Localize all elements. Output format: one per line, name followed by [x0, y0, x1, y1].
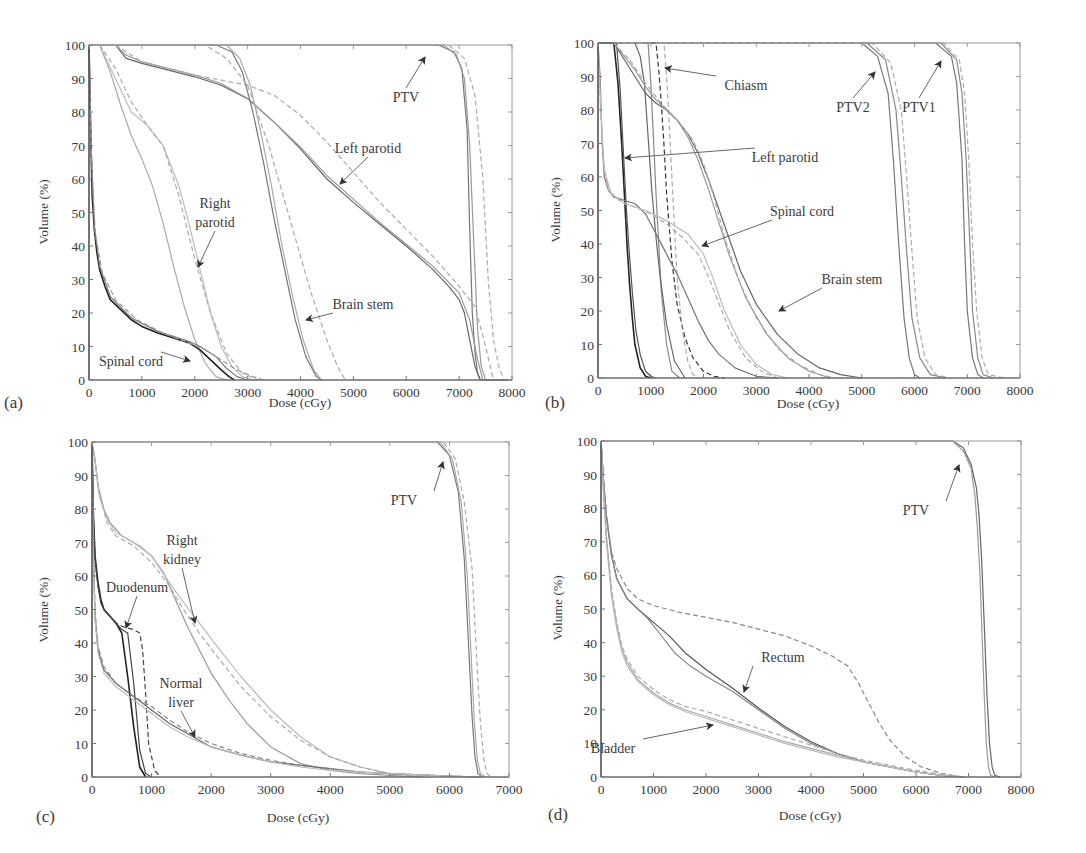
x-tick-label: 5000 [376, 782, 403, 797]
x-tick-label: 4000 [798, 782, 825, 797]
y-tick-label: 70 [581, 137, 595, 152]
curve-duodenum [92, 442, 152, 777]
x-tick-label: 7000 [955, 782, 982, 797]
curve-normal-liver [92, 442, 479, 777]
x-tick-label: 2000 [198, 782, 225, 797]
annotation-label-right: Right [166, 533, 197, 548]
curve-spinal-cord [89, 45, 248, 380]
annotation-label-left-parotid: Left parotid [752, 150, 818, 165]
annotation-label-bladder: Bladder [591, 741, 636, 756]
y-tick-label: 80 [75, 502, 89, 517]
annotation-arrow-icon [182, 568, 195, 623]
panel-d-ylabel: Volume (%) [550, 575, 565, 640]
x-tick-label: 8000 [499, 385, 526, 400]
y-tick-label: 0 [590, 770, 597, 785]
y-tick-label: 90 [72, 72, 86, 87]
curve-right-parotid [100, 45, 227, 380]
x-tick-label: 3000 [257, 782, 284, 797]
curve-left-parotid [598, 43, 656, 378]
y-tick-label: 20 [72, 306, 86, 321]
y-tick-label: 40 [581, 237, 595, 252]
y-tick-label: 70 [72, 139, 86, 154]
annotation-label-spinal-cord: Spinal cord [770, 204, 834, 219]
y-tick-label: 40 [75, 636, 89, 651]
annotation-label-chiasm: Chiasm [725, 78, 768, 93]
y-tick-label: 50 [72, 206, 86, 221]
panel-b: 0100020003000400050006000700080000102030… [545, 36, 1034, 412]
annotation-arrow-icon [126, 596, 137, 628]
x-tick-label: 1000 [640, 782, 667, 797]
x-tick-label: 0 [89, 782, 96, 797]
x-tick-label: 7000 [446, 385, 473, 400]
x-tick-label: 6000 [436, 782, 463, 797]
y-tick-label: 50 [584, 602, 598, 617]
x-tick-label: 6000 [393, 385, 420, 400]
curve-normal-liver [92, 442, 479, 777]
y-tick-label: 10 [72, 340, 86, 355]
curve-spinal-cord [89, 45, 264, 380]
x-tick-label: 5000 [850, 782, 877, 797]
curve-duodenum [92, 442, 161, 777]
y-tick-label: 10 [581, 338, 595, 353]
panel-c-curves [92, 442, 491, 777]
panel-c-ylabel: Volume (%) [36, 577, 51, 642]
x-tick-label: 1000 [138, 782, 165, 797]
y-tick-label: 50 [581, 204, 595, 219]
x-tick-label: 3000 [743, 383, 770, 398]
annotation-arrow-icon [161, 352, 190, 361]
x-tick-label: 6000 [901, 383, 928, 398]
panel-d-curves [601, 441, 1000, 777]
annotation-label-kidney: kidney [163, 552, 201, 567]
x-tick-label: 3000 [234, 385, 261, 400]
annotation-label-ptv: PTV [903, 503, 929, 518]
x-tick-label: 5000 [848, 383, 875, 398]
curve-chiasm [643, 43, 680, 378]
y-tick-label: 30 [75, 670, 89, 685]
y-tick-label: 60 [584, 568, 598, 583]
curve-ptv [601, 441, 1000, 777]
panel-d-label: (d) [548, 805, 568, 824]
y-tick-label: 20 [581, 304, 595, 319]
curve-right-kidney [92, 442, 420, 777]
annotation-label-duodenum: Duodenum [106, 580, 168, 595]
y-tick-label: 70 [75, 536, 89, 551]
annotation-label-ptv: PTV [391, 493, 417, 508]
y-tick-label: 60 [75, 569, 89, 584]
y-tick-label: 70 [584, 535, 598, 550]
x-tick-label: 6000 [903, 782, 930, 797]
y-tick-label: 80 [581, 103, 595, 118]
plot-frame [92, 442, 509, 777]
plot-frame [601, 441, 1021, 777]
annotation-arrow-icon [198, 231, 215, 267]
annotation-arrow-icon [406, 57, 425, 88]
x-tick-label: 2000 [693, 782, 720, 797]
curve-spinal-cord [89, 45, 234, 380]
x-tick-label: 0 [86, 385, 93, 400]
annotation-label-right: Right [199, 196, 230, 211]
panel-d: 0100020003000400050006000700080000102030… [548, 434, 1035, 824]
annotation-arrow-icon [434, 462, 443, 491]
panel-b-xlabel: Dose (cGy) [777, 396, 840, 411]
x-tick-label: 5000 [340, 385, 367, 400]
x-tick-label: 7000 [954, 383, 981, 398]
x-tick-label: 2000 [690, 383, 717, 398]
y-tick-label: 0 [78, 373, 85, 388]
panel-a-annotations: PTVLeft parotidRightparotidBrain stemSpi… [99, 57, 425, 369]
y-tick-label: 100 [65, 38, 86, 53]
y-tick-label: 90 [581, 70, 595, 85]
y-tick-label: 10 [75, 737, 89, 752]
curve-right-parotid [100, 45, 253, 380]
panel-b-label: (b) [545, 393, 565, 412]
annotation-label-parotid: parotid [195, 215, 235, 230]
panel-c-annotations: PTVRightkidneyDuodenumNormalliver [106, 462, 443, 737]
x-tick-label: 1000 [128, 385, 155, 400]
y-tick-label: 30 [72, 273, 86, 288]
curve-right-kidney [92, 442, 426, 777]
y-tick-label: 80 [72, 105, 86, 120]
panel-a-curves [89, 45, 512, 380]
annotation-label-liver: liver [168, 695, 194, 710]
y-tick-label: 30 [584, 669, 598, 684]
curve-rectum [601, 441, 963, 777]
panel-c-xlabel: Dose (cGy) [267, 810, 330, 825]
y-tick-label: 40 [584, 636, 598, 651]
